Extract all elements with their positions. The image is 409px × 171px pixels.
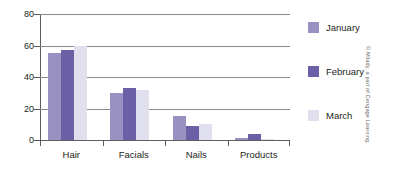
bar-chart-figure: 020406080 HairFacialsNailsProducts Janua… xyxy=(0,0,409,171)
bar-facials-january xyxy=(110,93,123,140)
legend-item-february: February xyxy=(308,66,364,77)
y-tick-label-0: 0 xyxy=(8,136,34,145)
x-axis-label-nails: Nails xyxy=(186,149,207,160)
bar-group-hair xyxy=(48,14,87,140)
legend-item-january: January xyxy=(308,22,360,33)
bar-hair-february xyxy=(61,50,74,140)
bar-nails-march xyxy=(199,124,212,140)
bar-group-facials xyxy=(110,14,149,140)
legend-label-february: February xyxy=(326,66,364,77)
legend-label-march: March xyxy=(326,110,352,121)
legend-swatch-february-icon xyxy=(308,66,319,77)
y-tick-label-20: 20 xyxy=(8,105,34,114)
bar-facials-february xyxy=(123,88,136,140)
bar-hair-january xyxy=(48,53,61,140)
x-tick-4 xyxy=(289,140,290,146)
y-axis-tick-labels: 020406080 xyxy=(0,14,34,140)
legend-swatch-january-icon xyxy=(308,22,319,33)
x-tick-3 xyxy=(228,140,229,146)
x-tick-1 xyxy=(103,140,104,146)
bar-nails-january xyxy=(173,116,186,140)
y-tick-label-60: 60 xyxy=(8,42,34,51)
x-axis-label-products: Products xyxy=(240,149,278,160)
x-axis: HairFacialsNailsProducts xyxy=(40,140,290,171)
bar-group-nails xyxy=(173,14,212,140)
plot-area xyxy=(40,14,290,140)
copyright-credit: © Milady, a part of Cengage Learning. xyxy=(365,46,371,144)
bar-facials-march xyxy=(136,90,149,140)
x-tick-2 xyxy=(165,140,166,146)
y-tick-label-80: 80 xyxy=(8,10,34,19)
legend-item-march: March xyxy=(308,110,352,121)
chart-legend: JanuaryFebruaryMarch xyxy=(308,22,383,132)
bar-nails-february xyxy=(186,126,199,140)
legend-swatch-march-icon xyxy=(308,110,319,121)
legend-label-january: January xyxy=(326,22,360,33)
bar-hair-march xyxy=(74,46,87,141)
bar-group-products xyxy=(235,14,274,140)
x-axis-label-hair: Hair xyxy=(63,149,80,160)
x-tick-0 xyxy=(40,140,41,146)
y-tick-label-40: 40 xyxy=(8,73,34,82)
x-axis-label-facials: Facials xyxy=(119,149,149,160)
